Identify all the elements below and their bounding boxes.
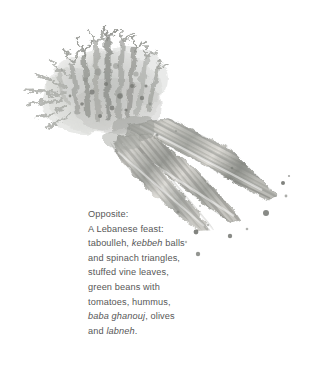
caption-line-line8: baba ghanouj, olives (88, 309, 288, 324)
caption-line-line3: taboulleh, kebbeh balls (88, 236, 288, 251)
caption-text: tomatoes, hummus, (88, 297, 171, 307)
caption-line-line5: stuffed vine leaves, (88, 265, 288, 280)
caption-line-line6: green beans with (88, 280, 288, 295)
caption-text: stuffed vine leaves, (88, 267, 169, 277)
caption-text: balls (163, 238, 185, 248)
page-canvas: Opposite:A Lebanese feast:taboulleh, keb… (0, 0, 321, 369)
caption-text: . (135, 326, 138, 336)
caption-line-line2: A Lebanese feast: (88, 222, 288, 237)
caption-text: and spinach triangles, (88, 253, 180, 263)
caption-line-line1: Opposite: (88, 207, 288, 222)
caption-line-line9: and labneh. (88, 324, 288, 339)
caption-line-line4: and spinach triangles, (88, 251, 288, 266)
caption-italic-term: baba ghanouj (88, 311, 145, 321)
caption-line-line7: tomatoes, hummus, (88, 295, 288, 310)
figure-caption: Opposite:A Lebanese feast:taboulleh, keb… (88, 207, 288, 338)
caption-text: , olives (145, 311, 175, 321)
caption-text: and (88, 326, 106, 336)
caption-text: green beans with (88, 282, 160, 292)
caption-text: Opposite: (88, 209, 128, 219)
caption-italic-term: labneh (106, 326, 134, 336)
caption-text: A Lebanese feast: (88, 224, 164, 234)
caption-italic-term: kebbeh (132, 238, 163, 248)
caption-text: taboulleh, (88, 238, 132, 248)
